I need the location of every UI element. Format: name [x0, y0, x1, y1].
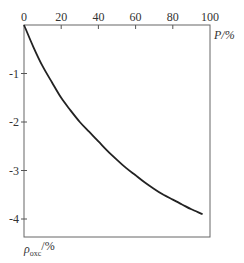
x-tick-label: 0 [21, 10, 27, 24]
x-tick-label: 80 [167, 10, 179, 24]
x-tick-label: 40 [92, 10, 104, 24]
y-tick-label: -4 [9, 212, 19, 226]
y-tick-label: -1 [9, 67, 19, 81]
chart: 020406080100 -1-2-3-4 P/% ρoxc/% [0, 0, 244, 263]
x-axis-ticks: 020406080100 [21, 10, 219, 29]
y-axis-label-unit: /% [41, 239, 54, 253]
x-axis-label: P/% [213, 28, 235, 42]
x-tick-label: 20 [55, 10, 67, 24]
y-tick-label: -3 [9, 164, 19, 178]
y-axis-label: ρoxc/% [23, 239, 55, 258]
y-axis-label-sub: oxc [30, 249, 42, 258]
data-curve [24, 25, 203, 214]
x-tick-label: 60 [130, 10, 142, 24]
x-tick-label: 100 [201, 10, 219, 24]
y-tick-label: -2 [9, 115, 19, 129]
